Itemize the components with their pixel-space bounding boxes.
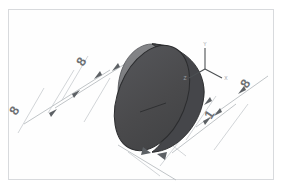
x-axis-line: [205, 69, 222, 78]
extension-line: [48, 70, 74, 113]
y-axis-label: Y: [203, 41, 207, 47]
extension-line: [18, 88, 44, 133]
z-axis-label: Z: [183, 75, 186, 81]
dimension-line-left-outer: [24, 70, 110, 124]
cad-scene: Y X Z 8 8 8 1: [0, 0, 283, 190]
x-axis-label: X: [224, 75, 228, 81]
arrowhead: [49, 109, 57, 117]
dimension-label-left-inner: 8: [73, 54, 90, 68]
cad-viewport: Y X Z 8 8 8 1: [0, 0, 283, 190]
extension-line: [84, 78, 110, 122]
extension-line: [128, 152, 160, 176]
cylinder-solid: [100, 34, 204, 161]
dimension-label-left-outer: 8: [6, 103, 23, 117]
